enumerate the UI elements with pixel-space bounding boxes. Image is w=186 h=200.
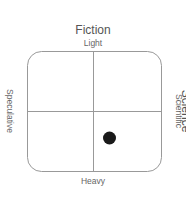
quadrant-chart <box>0 0 186 200</box>
position-marker[interactable] <box>103 132 116 145</box>
